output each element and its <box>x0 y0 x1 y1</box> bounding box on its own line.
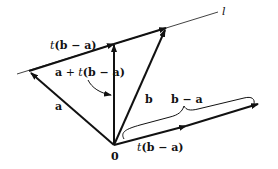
label-t-b-minus-a-bottom: t(b − a) <box>137 141 184 154</box>
label-t-b-minus-a-top: t(b − a) <box>50 39 97 52</box>
label-b: b <box>145 93 153 106</box>
vector-line-diagram: t(b − a) a + t(b − a) a b b − a 0 t(b − … <box>0 0 278 169</box>
label-origin-zero: 0 <box>111 150 119 163</box>
label-a: a <box>55 100 62 113</box>
vector-b <box>114 30 165 145</box>
vector-a <box>31 73 114 145</box>
line-segment-to-b <box>114 28 166 44</box>
vector-b-minus-a <box>186 104 258 126</box>
label-a-plus-t-b-minus-a: a + t(b − a) <box>55 66 125 79</box>
label-line-l: l <box>222 5 226 18</box>
label-b-minus-a: b − a <box>171 93 203 106</box>
pointer-arrow <box>88 80 111 95</box>
